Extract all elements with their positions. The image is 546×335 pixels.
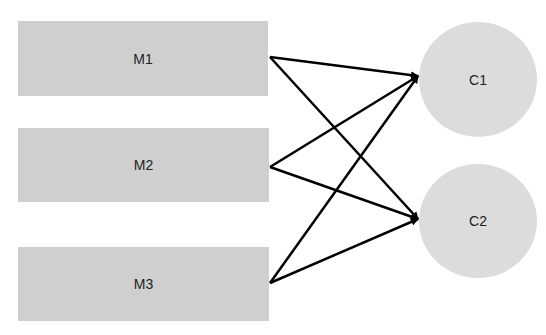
node-m3-label: M3 bbox=[134, 276, 153, 292]
edge-m1-c2 bbox=[270, 57, 418, 219]
node-m1-label: M1 bbox=[133, 51, 152, 67]
node-c2: C2 bbox=[419, 164, 537, 278]
edge-m1-c1 bbox=[270, 57, 418, 76]
node-c2-label: C2 bbox=[469, 213, 487, 229]
node-m2: M2 bbox=[18, 128, 269, 202]
node-m1: M1 bbox=[18, 21, 268, 96]
edge-m2-c1 bbox=[270, 76, 418, 167]
node-c1: C1 bbox=[419, 22, 537, 137]
node-m2-label: M2 bbox=[134, 157, 153, 173]
node-m3: M3 bbox=[18, 247, 269, 321]
node-c1-label: C1 bbox=[469, 72, 487, 88]
